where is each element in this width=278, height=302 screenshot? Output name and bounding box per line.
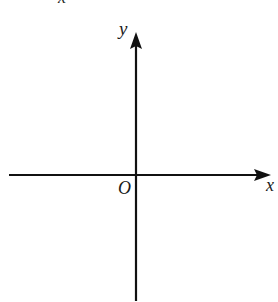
y-axis-label: y (119, 19, 127, 38)
x-axis-label: x (266, 176, 274, 194)
coordinate-plane: x y O x (0, 0, 278, 302)
axes-graphic (0, 0, 278, 302)
origin-label: O (118, 179, 131, 197)
cropped-x-label: x (58, 0, 66, 6)
